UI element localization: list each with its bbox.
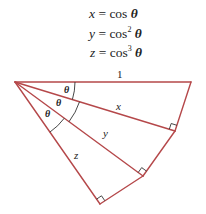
hypotenuse-label: 1 [117, 68, 123, 80]
right-edge-1 [175, 82, 191, 131]
angle-arc-2 [69, 102, 80, 122]
z-label: z [73, 149, 79, 161]
theta-label-2: θ [56, 97, 62, 108]
x-label: x [115, 100, 121, 112]
right-angle-marks [97, 124, 177, 201]
right-edge-2 [143, 131, 175, 176]
y-line [15, 82, 143, 176]
right-edge-3 [100, 176, 143, 204]
angle-arc-1 [72, 82, 75, 100]
triangle-diagram: 1 x y z θ θ θ [0, 0, 206, 214]
theta-label-1: θ [64, 84, 70, 95]
x-line [15, 82, 175, 131]
triangle-lines [15, 82, 191, 204]
y-label: y [102, 127, 108, 139]
theta-label-3: θ [45, 108, 51, 119]
angle-arc-3 [50, 118, 64, 132]
